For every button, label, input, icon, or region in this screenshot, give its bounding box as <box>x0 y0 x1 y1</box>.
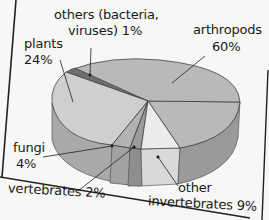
label-others-line2: viruses) 1% <box>68 24 142 38</box>
label-plants-line1: plants <box>24 37 63 51</box>
frame-right-border <box>262 70 268 220</box>
label-fungi-line1: fungi <box>13 141 45 155</box>
fungi-side-front <box>110 145 130 185</box>
chart-card: others (bacteria, viruses) 1% plants 24%… <box>0 0 269 220</box>
label-arthropods-line1: arthropods <box>193 23 262 37</box>
label-other-invertebrates-line1: other <box>178 181 212 195</box>
label-fungi-line2: 4% <box>16 157 36 171</box>
vertebrates-side <box>128 148 142 186</box>
label-others-line1: others (bacteria, <box>54 8 159 22</box>
label-arthropods-line2: 60% <box>212 40 240 54</box>
label-plants-line2: 24% <box>24 53 52 67</box>
